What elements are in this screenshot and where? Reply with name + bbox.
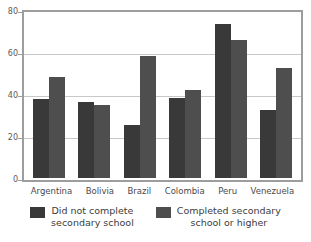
- bar-bolivia-series-1: [94, 105, 110, 178]
- legend-swatch-icon-0: [30, 207, 45, 218]
- chart-legend: Did not complete secondary schoolComplet…: [0, 205, 311, 228]
- bar-peru-series-0: [215, 24, 231, 178]
- bar-group-brazil: [124, 14, 156, 178]
- bar-group-peru: [215, 14, 247, 178]
- bar-bolivia-series-0: [78, 102, 94, 178]
- bar-colombia-series-1: [185, 90, 201, 178]
- y-tick-label-20: 20: [0, 134, 18, 142]
- bar-group-colombia: [169, 14, 201, 178]
- x-label-peru: Peru: [218, 186, 237, 196]
- x-label-brazil: Brazil: [128, 186, 152, 196]
- legend-label-1: Completed secondary school or higher: [177, 205, 281, 228]
- y-tick-label-60: 60: [0, 50, 18, 58]
- plot-area: [22, 10, 303, 182]
- bar-brazil-series-0: [124, 125, 140, 178]
- bar-venezuela-series-0: [260, 110, 276, 178]
- bar-chart: 020406080 ArgentinaBoliviaBrazilColombia…: [0, 0, 311, 242]
- legend-item-0[interactable]: Did not complete secondary school: [30, 205, 134, 228]
- y-tick-label-80: 80: [0, 8, 18, 16]
- x-axis-labels: ArgentinaBoliviaBrazilColombiaPeruVenezu…: [24, 186, 301, 196]
- bar-group-argentina: [33, 14, 65, 178]
- y-tick-label-40: 40: [0, 92, 18, 100]
- x-label-argentina: Argentina: [31, 186, 72, 196]
- bar-argentina-series-1: [49, 77, 65, 178]
- legend-item-1[interactable]: Completed secondary school or higher: [156, 205, 281, 228]
- bar-groups: [26, 14, 299, 178]
- x-label-venezuela: Venezuela: [251, 186, 295, 196]
- bar-group-venezuela: [260, 14, 292, 178]
- legend-swatch-icon-1: [156, 207, 171, 218]
- legend-label-0: Did not complete secondary school: [51, 205, 134, 228]
- y-tick-label-0: 0: [0, 176, 18, 184]
- bar-brazil-series-1: [140, 56, 156, 178]
- x-label-colombia: Colombia: [165, 186, 205, 196]
- bar-argentina-series-0: [33, 99, 49, 178]
- bar-colombia-series-0: [169, 98, 185, 178]
- bar-venezuela-series-1: [276, 68, 292, 178]
- bar-peru-series-1: [231, 40, 247, 178]
- bar-group-bolivia: [78, 14, 110, 178]
- x-label-bolivia: Bolivia: [86, 186, 114, 196]
